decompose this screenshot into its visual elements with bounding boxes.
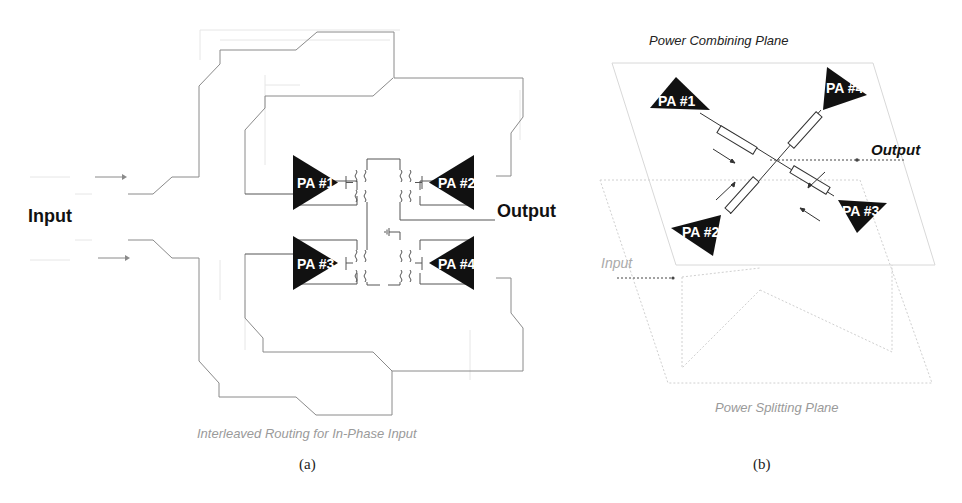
panel-b: Power Combining Plane — [600, 33, 935, 473]
figure-canvas: PA #1 PA #2 PA #3 PA #4 — [0, 0, 962, 503]
pa4-3d: PA #4 — [823, 67, 867, 110]
pa1-block: PA #1 — [245, 155, 357, 210]
input-label-3d: Input — [601, 255, 633, 271]
output-label-3d: Output — [871, 141, 921, 158]
pa4-3d-label: PA #4 — [826, 80, 864, 96]
transformer-coils — [355, 170, 411, 282]
pa3-block: PA #3 — [245, 236, 357, 290]
splitting-plane-title: Power Splitting Plane — [715, 400, 839, 415]
input-label: Input — [28, 206, 72, 226]
panel-a-sublabel: (a) — [299, 456, 316, 473]
combining-plane-title: Power Combining Plane — [649, 33, 788, 48]
splitting-routes — [682, 265, 892, 368]
panel-b-sublabel: (b) — [753, 456, 771, 473]
pa2-block: PA #2 — [420, 155, 476, 210]
output-path — [770, 158, 905, 162]
pa3-3d: PA #3 — [838, 200, 887, 233]
splitting-plane — [600, 180, 932, 383]
ground-icon — [385, 228, 395, 236]
input-arrows — [75, 174, 130, 261]
pa3-label: PA #3 — [297, 256, 335, 272]
pa1-label: PA #1 — [297, 175, 335, 191]
panel-a: PA #1 PA #2 PA #3 PA #4 — [28, 30, 556, 473]
pa1-3d-label: PA #1 — [658, 93, 696, 109]
transmission-lines — [700, 110, 834, 214]
pa4-label: PA #4 — [438, 256, 476, 272]
pa3-3d-label: PA #3 — [842, 203, 880, 219]
pa1-3d: PA #1 — [650, 77, 710, 110]
pa2-3d: PA #2 — [671, 215, 721, 256]
combiner-loop — [367, 159, 495, 285]
routing-caption: Interleaved Routing for In-Phase Input — [197, 426, 418, 441]
output-label: Output — [497, 201, 556, 221]
pa4-block: PA #4 — [420, 236, 476, 290]
pa2-label: PA #2 — [438, 175, 476, 191]
pa2-3d-label: PA #2 — [682, 224, 720, 240]
input-path — [617, 276, 675, 279]
